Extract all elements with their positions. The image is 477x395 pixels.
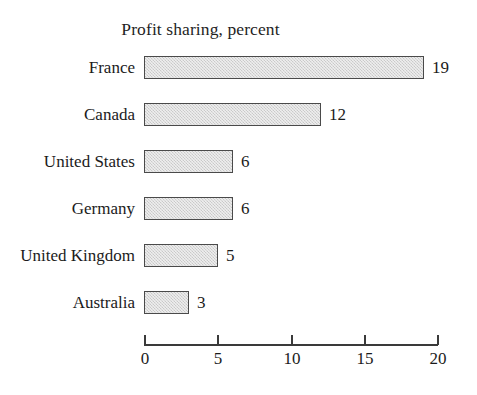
x-axis-tick-label: 10: [272, 349, 312, 369]
x-axis-tick-label: 15: [345, 349, 385, 369]
bar-chart: Profit sharing, percent France 19 Canada…: [0, 0, 477, 395]
x-axis-tick: [144, 335, 146, 345]
x-axis-tick: [364, 335, 366, 345]
x-axis-tick: [291, 335, 293, 345]
x-axis-tick-label: 20: [418, 349, 458, 369]
x-axis-tick: [217, 335, 219, 345]
x-axis-tick-label: 0: [125, 349, 165, 369]
x-axis-tick-label: 5: [198, 349, 238, 369]
x-axis-tick: [437, 335, 439, 345]
x-axis: 0 5 10 15 20: [0, 0, 477, 395]
